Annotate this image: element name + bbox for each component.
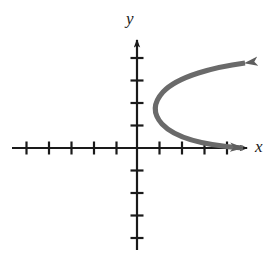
y-axis-label: y — [126, 10, 134, 27]
x-axis-label: x — [255, 138, 263, 155]
coordinate-plane-figure: y x — [0, 0, 268, 254]
y-axis — [131, 40, 144, 250]
parabola-curve — [155, 63, 245, 148]
graph-canvas — [0, 0, 268, 254]
parabola-path — [155, 63, 245, 148]
